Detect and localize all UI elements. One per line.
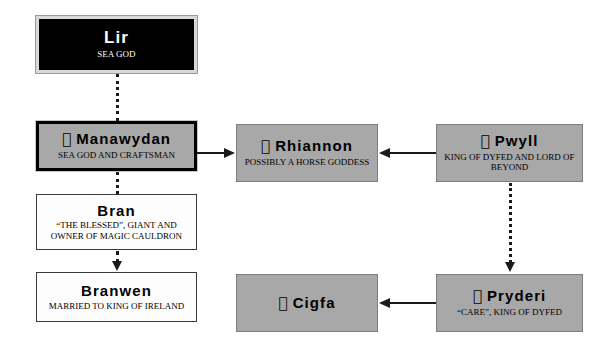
node-branwen-subtitle: Married to King of Ireland [49, 301, 185, 311]
apple-icon:  [473, 287, 482, 305]
node-cigfa[interactable]:  Cigfa [236, 274, 378, 332]
edge-pryderi-cigfa-line [390, 302, 436, 304]
node-lir[interactable]: Lir Sea God [36, 16, 197, 73]
edge-manawydan-rhiannon-line [197, 152, 225, 154]
node-cigfa-name: Cigfa [293, 294, 336, 311]
node-bran-subtitle-line2: owner of magic cauldron [51, 231, 182, 241]
edge-pwyll-pryderi-line [509, 183, 512, 263]
node-pryderi-subtitle: “Care”, King of Dyfed [457, 307, 562, 317]
node-branwen-title: Branwen [81, 283, 152, 299]
edge-manawydan-bran-line [116, 172, 119, 194]
node-lir-subtitle: Sea God [97, 49, 135, 59]
node-manawydan-name: Manawydan [76, 130, 171, 147]
node-lir-title: Lir [104, 29, 129, 47]
node-rhiannon[interactable]:  Rhiannon Possibly a horse goddess [236, 124, 378, 182]
edge-pwyll-pryderi-arrowhead [505, 262, 515, 272]
node-pryderi[interactable]:  Pryderi “Care”, King of Dyfed [436, 274, 583, 332]
node-pryderi-title:  Pryderi [473, 288, 547, 305]
node-bran[interactable]: Bran “the Blessed”, giant and owner of m… [36, 194, 197, 250]
node-manawydan-title:  Manawydan [62, 131, 171, 148]
edge-lir-manawydan-line [116, 74, 119, 121]
edge-pwyll-rhiannon-arrowhead [379, 148, 390, 158]
node-bran-subtitle-line1: “the Blessed”, giant and [56, 220, 176, 230]
edge-bran-branwen-arrowhead [112, 261, 122, 271]
node-pwyll-subtitle-line1: King of Dyfed and Lord of [444, 152, 574, 162]
edge-pryderi-cigfa-arrowhead [379, 298, 390, 308]
node-branwen[interactable]: Branwen Married to King of Ireland [36, 272, 197, 322]
edge-manawydan-rhiannon-arrowhead [224, 148, 235, 158]
node-rhiannon-subtitle: Possibly a horse goddess [245, 157, 370, 167]
node-manawydan-subtitle: Sea God and Craftsman [58, 150, 175, 160]
node-pwyll-subtitle-line2: Beyond [491, 162, 529, 172]
node-pwyll-title:  Pwyll [480, 133, 538, 150]
node-pwyll[interactable]:  Pwyll King of Dyfed and Lord of Beyond [436, 124, 583, 182]
apple-icon:  [480, 132, 489, 150]
node-manawydan[interactable]:  Manawydan Sea God and Craftsman [36, 121, 197, 171]
node-cigfa-title:  Cigfa [278, 295, 335, 312]
edge-pwyll-rhiannon-line [390, 152, 436, 154]
apple-icon:  [62, 130, 71, 148]
node-pryderi-name: Pryderi [487, 287, 546, 304]
node-bran-title: Bran [97, 203, 136, 219]
node-rhiannon-title:  Rhiannon [261, 138, 353, 155]
genealogy-diagram: Lir Sea God  Manawydan Sea God and Craf… [0, 0, 597, 351]
apple-icon:  [278, 294, 287, 312]
node-rhiannon-name: Rhiannon [275, 137, 353, 154]
apple-icon:  [261, 137, 270, 155]
node-pwyll-name: Pwyll [495, 132, 539, 149]
